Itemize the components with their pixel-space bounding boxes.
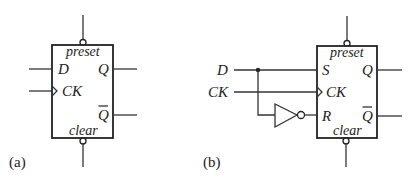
preset-label-b: preset (329, 45, 365, 60)
clear-label-a: clear (69, 123, 98, 138)
panel-b: D CK preset clear S CK R Q Q (b) (203, 16, 402, 171)
clear-label-b: clear (333, 123, 362, 138)
ck-pin-label-a: CK (62, 83, 83, 99)
ck-pin-label-b: CK (326, 84, 347, 100)
inverter-gate-icon (275, 104, 297, 127)
clear-bubble-b (343, 138, 349, 144)
ck-input-label-b: CK (208, 84, 229, 100)
panel-a: preset clear D CK Q Q (a) (9, 15, 137, 171)
caption-b: (b) (203, 154, 221, 171)
r-pin-label-b: R (321, 108, 331, 124)
preset-label-a: preset (65, 44, 101, 59)
caption-a: (a) (9, 154, 26, 171)
inverter-bubble (298, 112, 305, 119)
q-pin-label-b: Q (362, 62, 373, 78)
d-pin-label-a: D (57, 61, 69, 77)
d-input-label-b: D (216, 62, 228, 78)
clear-bubble-a (80, 138, 86, 144)
s-pin-label-b: S (322, 62, 330, 78)
q-pin-label-a: Q (98, 61, 109, 77)
flip-flop-diagram: preset clear D CK Q Q (a) D C (0, 0, 417, 182)
qbar-pin-label-a: Q (98, 107, 109, 123)
qbar-pin-label-b: Q (362, 108, 373, 124)
